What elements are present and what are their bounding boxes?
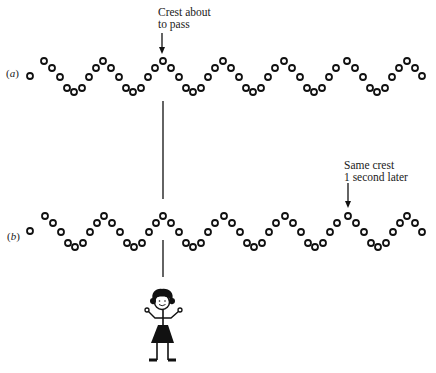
skirt xyxy=(151,325,174,343)
foot-right xyxy=(168,359,176,362)
annotation-same-crest-later: Same crest 1 second later xyxy=(344,160,408,183)
wave-particle xyxy=(404,213,410,219)
wave-particle xyxy=(229,220,235,226)
hand-right xyxy=(178,308,182,312)
annotation-crest-about-to-pass: Crest about to pass xyxy=(158,7,211,30)
wave-particle xyxy=(58,229,64,235)
wave-particle xyxy=(251,244,257,250)
wave-particle xyxy=(319,85,325,91)
wave-particle xyxy=(152,65,158,71)
wave-particle xyxy=(176,74,182,80)
wave-particle xyxy=(312,244,318,250)
wave-particle xyxy=(42,213,48,219)
wave-particle xyxy=(146,229,152,235)
wave-particle xyxy=(27,228,33,234)
wave-particle xyxy=(190,244,196,250)
hand-left xyxy=(145,308,149,312)
wave-particle xyxy=(389,74,395,80)
wave-particle xyxy=(327,229,333,235)
wave-particle xyxy=(205,229,211,235)
wave-particle xyxy=(145,74,151,80)
wave-particle xyxy=(79,85,85,91)
wave-particle xyxy=(41,58,47,64)
hair-puff-right xyxy=(169,298,175,304)
eye-left xyxy=(159,300,161,302)
wave-particle xyxy=(221,213,227,219)
hair-puff-left xyxy=(150,298,156,304)
wave-particle xyxy=(87,229,93,235)
wave-particle xyxy=(80,240,86,246)
smile xyxy=(159,305,166,306)
wave-particle xyxy=(237,229,243,235)
wave-particle xyxy=(305,240,311,246)
wave-particle xyxy=(244,240,250,246)
wave-particle xyxy=(168,65,174,71)
wave-particle xyxy=(71,89,77,95)
foot-left xyxy=(149,359,157,362)
wave-particle xyxy=(220,58,226,64)
wave-particle xyxy=(49,65,55,71)
wave-particle xyxy=(334,220,340,226)
annotation-line-1: Crest about xyxy=(158,7,211,18)
annotation-arrows xyxy=(159,33,351,208)
wave-particle xyxy=(404,58,410,64)
wave-particle xyxy=(183,85,189,91)
wave-particle xyxy=(190,89,196,95)
wave-particle xyxy=(168,220,174,226)
wave-particle xyxy=(212,220,218,226)
wave-particle xyxy=(397,220,403,226)
wave-diagram xyxy=(0,0,436,373)
wave-particle xyxy=(281,58,287,64)
wave-particle xyxy=(50,220,56,226)
wave-particle xyxy=(101,213,107,219)
wave-particle xyxy=(258,85,264,91)
wave-particle xyxy=(298,229,304,235)
wave-particle xyxy=(72,244,78,250)
label-paren-close: ) xyxy=(16,230,20,242)
wave-particle xyxy=(123,85,129,91)
wave-particle xyxy=(368,240,374,246)
wave-particle xyxy=(243,85,249,91)
wave-particle xyxy=(100,58,106,64)
wave-particle xyxy=(272,65,278,71)
wave-particle xyxy=(212,65,218,71)
label-paren-close: ) xyxy=(15,67,19,79)
wave-particle xyxy=(86,74,92,80)
wave-particle xyxy=(130,89,136,95)
arrow-down-icon xyxy=(345,201,351,208)
annotation-line-2: 1 second later xyxy=(344,172,408,183)
wave-particle xyxy=(139,240,145,246)
wave-particle xyxy=(57,74,63,80)
wave-particle xyxy=(326,74,332,80)
wave-particle xyxy=(117,229,123,235)
wave-particle xyxy=(311,89,317,95)
wave-particle xyxy=(396,65,402,71)
wave-particle xyxy=(344,58,350,64)
wave-particle xyxy=(153,220,159,226)
wave-particle xyxy=(198,240,204,246)
wave-particle xyxy=(367,85,373,91)
wave-particle xyxy=(236,74,242,80)
wave-particle xyxy=(265,74,271,80)
wave-particle xyxy=(282,213,288,219)
wave-particle xyxy=(259,240,265,246)
wave-particle xyxy=(198,85,204,91)
wave-particle xyxy=(352,65,358,71)
arrow-down-icon xyxy=(159,47,165,54)
wave-particle xyxy=(64,85,70,91)
wave-particle xyxy=(412,220,418,226)
wave-particle xyxy=(353,220,359,226)
wave-particle xyxy=(160,58,166,64)
wave-particle xyxy=(183,240,189,246)
wave-particle xyxy=(138,85,144,91)
wave-row-b xyxy=(27,213,425,250)
eye-right xyxy=(164,300,166,302)
wave-particle xyxy=(382,85,388,91)
wave-particle xyxy=(374,89,380,95)
wave-particle xyxy=(390,229,396,235)
wave-particle xyxy=(93,65,99,71)
wave-particle xyxy=(205,74,211,80)
wave-particle xyxy=(333,65,339,71)
wave-particle xyxy=(419,229,425,235)
wave-particle xyxy=(116,74,122,80)
